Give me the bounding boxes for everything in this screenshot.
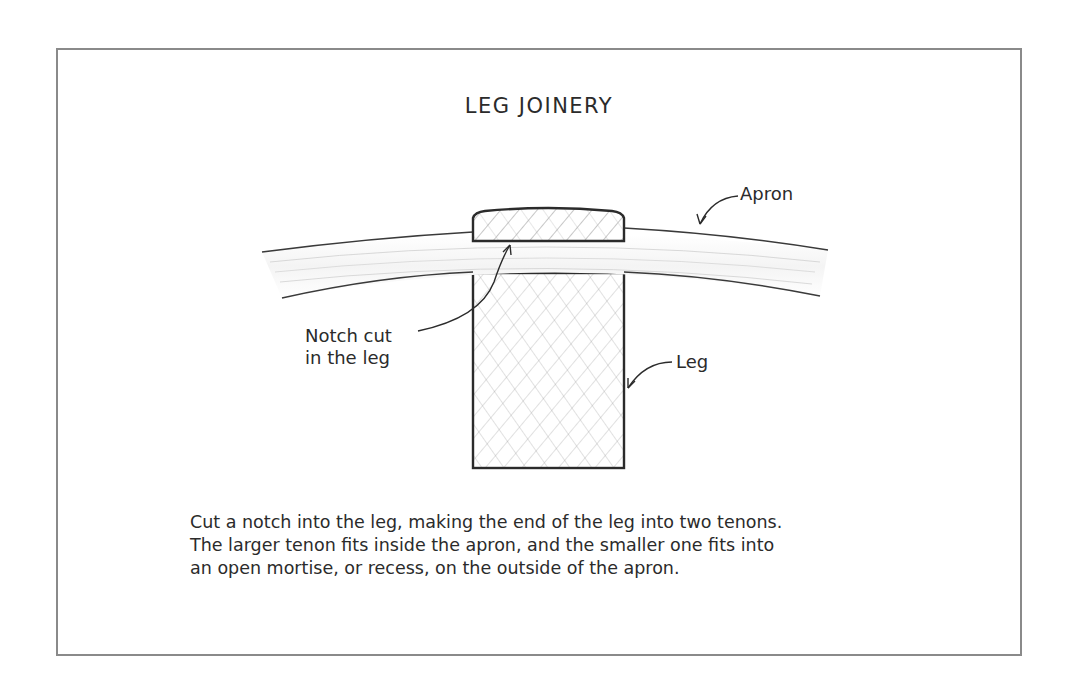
outer-tenon-shape: [473, 208, 624, 241]
leg-leader-arrow: [628, 362, 672, 388]
leg-shape: [473, 273, 624, 468]
caption-line: Cut a notch into the leg, making the end…: [190, 511, 1010, 534]
notch-label-line2: in the leg: [305, 347, 392, 369]
leg-joinery-illustration: [0, 0, 1078, 693]
apron-label: Apron: [740, 183, 793, 205]
leg-label: Leg: [676, 351, 708, 373]
figure-caption: Cut a notch into the leg, making the end…: [190, 511, 1010, 580]
caption-line: an open mortise, or recess, on the outsi…: [190, 557, 1010, 580]
notch-label: Notch cut in the leg: [305, 325, 392, 369]
notch-label-line1: Notch cut: [305, 325, 392, 347]
apron-leader-arrow: [697, 196, 738, 224]
caption-line: The larger tenon fits inside the apron, …: [190, 534, 1010, 557]
